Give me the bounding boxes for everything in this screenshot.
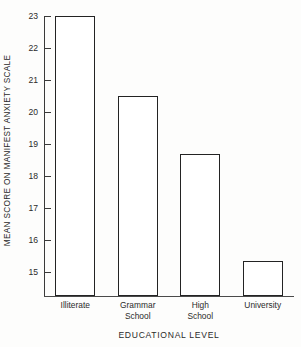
bar-illiterate bbox=[55, 16, 95, 296]
x-category-label-line: High bbox=[169, 300, 232, 311]
plot-area: 232221201918171615 bbox=[44, 16, 294, 297]
x-axis-spine bbox=[44, 296, 294, 297]
y-tick-mark bbox=[44, 144, 51, 145]
y-tick-label: 23 bbox=[18, 12, 38, 21]
bar-grammar-school bbox=[118, 96, 158, 296]
bar-chart-figure: MEAN SCORE ON MANIFEST ANXIETY SCALE 232… bbox=[0, 0, 301, 347]
y-tick-label: 21 bbox=[18, 76, 38, 85]
bar-high-school bbox=[180, 154, 220, 296]
x-axis-title: EDUCATIONAL LEVEL bbox=[44, 330, 294, 340]
x-category-label-illiterate: Illiterate bbox=[44, 300, 107, 311]
y-tick-label: 20 bbox=[18, 108, 38, 117]
x-category-label-line: Grammar bbox=[107, 300, 170, 311]
y-tick-mark bbox=[44, 272, 51, 273]
x-category-label-university: University bbox=[232, 300, 295, 311]
y-tick-mark bbox=[44, 176, 51, 177]
y-tick-mark bbox=[44, 16, 51, 17]
y-tick-label: 16 bbox=[18, 236, 38, 245]
y-tick-label: 22 bbox=[18, 44, 38, 53]
y-tick-label: 17 bbox=[18, 204, 38, 213]
y-axis-title-text: MEAN SCORE ON MANIFEST ANXIETY SCALE bbox=[4, 54, 13, 246]
x-category-label-line: University bbox=[232, 300, 295, 311]
x-category-label-line: Illiterate bbox=[44, 300, 107, 311]
x-category-label-line: School bbox=[169, 311, 232, 322]
bar-university bbox=[243, 261, 283, 296]
x-axis-category-labels: IlliterateGrammarSchoolHighSchoolUnivers… bbox=[44, 300, 294, 326]
y-tick-label: 15 bbox=[18, 268, 38, 277]
x-category-label-grammar-school: GrammarSchool bbox=[107, 300, 170, 321]
y-tick-mark bbox=[44, 112, 51, 113]
y-tick-label: 19 bbox=[18, 140, 38, 149]
x-category-label-high-school: HighSchool bbox=[169, 300, 232, 321]
y-tick-mark bbox=[44, 240, 51, 241]
y-tick-mark bbox=[44, 48, 51, 49]
y-axis-spine bbox=[44, 16, 45, 297]
y-axis-title: MEAN SCORE ON MANIFEST ANXIETY SCALE bbox=[0, 0, 16, 300]
y-tick-mark bbox=[44, 80, 51, 81]
x-category-label-line: School bbox=[107, 311, 170, 322]
y-tick-mark bbox=[44, 208, 51, 209]
y-tick-label: 18 bbox=[18, 172, 38, 181]
